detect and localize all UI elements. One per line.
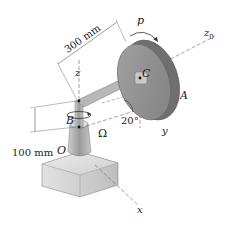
label-C: C [142, 68, 150, 79]
label-z: z [75, 68, 80, 78]
label-y: y [162, 126, 168, 136]
label-B: B [66, 115, 74, 126]
base-block [42, 152, 118, 197]
label-z0: z0 [204, 28, 214, 41]
disk [108, 33, 189, 128]
label-angle: 20° [121, 116, 139, 126]
label-Omega: Ω [98, 128, 107, 139]
label-A: A [180, 90, 188, 101]
height-dimension: 100 mm [12, 148, 53, 158]
diagram: 300 mm 100 mm p z0 C A z B 20° y Ω O x [0, 0, 229, 228]
label-z0-sub: 0 [209, 33, 213, 41]
label-O: O [57, 145, 66, 156]
label-x: x [137, 205, 143, 215]
label-p: p [137, 15, 144, 26]
